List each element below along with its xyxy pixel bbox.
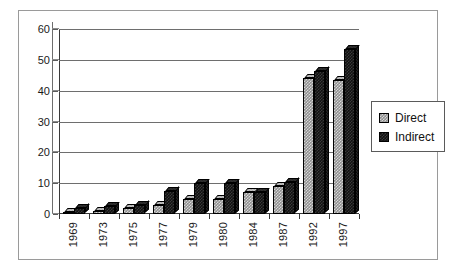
y-spine-step [52, 53, 59, 60]
y-tick-mark [53, 122, 58, 123]
bar-indirect-1980 [224, 183, 235, 214]
bar-face [213, 199, 224, 214]
y-tick-mark [53, 214, 58, 215]
bar-indirect-1975 [134, 205, 145, 214]
bar-group [269, 29, 299, 214]
x-tick-mark [359, 214, 360, 219]
x-tick-mark [329, 214, 330, 219]
bar-direct-1987 [273, 186, 284, 214]
x-tick-mark [119, 214, 120, 219]
bar-direct-1992 [303, 78, 314, 214]
y-tick-mark [53, 152, 58, 153]
plot-area: 0102030405060 19691973197519771979198019… [59, 29, 359, 214]
bar-face [123, 208, 134, 214]
bar-group [239, 29, 269, 214]
x-tick-mark [179, 214, 180, 219]
y-tick-label: 60 [38, 24, 50, 35]
bar-group [299, 29, 329, 214]
bar-face [134, 205, 145, 214]
bar-group [59, 29, 89, 214]
bar-direct-1969 [63, 212, 74, 214]
y-tick-mark [53, 183, 58, 184]
bar-direct-1977 [153, 205, 164, 214]
bar-direct-1979 [183, 199, 194, 214]
y-tick-label: 40 [38, 85, 50, 96]
bar-indirect-1973 [104, 206, 115, 214]
x-tick-label-1977: 1977 [158, 222, 169, 247]
x-tick-label-1973: 1973 [98, 222, 109, 247]
bar-indirect-1987 [284, 182, 295, 214]
bar-direct-1973 [93, 211, 104, 214]
bar-direct-1997 [333, 80, 344, 214]
bar-indirect-1997 [344, 49, 355, 214]
y-tick-label: 50 [38, 54, 50, 65]
bar-group [89, 29, 119, 214]
x-tick-label-1992: 1992 [308, 222, 319, 247]
bar-top [315, 67, 329, 71]
bar-indirect-1969 [74, 208, 85, 214]
x-tick-label-1987: 1987 [278, 222, 289, 247]
legend-label-indirect: Indirect [395, 131, 434, 143]
x-tick-label-1984: 1984 [248, 222, 259, 247]
bar-face [164, 191, 175, 214]
bar-face [63, 212, 74, 214]
chart-legend: Direct Indirect [371, 101, 445, 152]
y-spine-step [52, 115, 59, 122]
x-tick-mark [209, 214, 210, 219]
bar-side [355, 45, 359, 213]
legend-item-indirect: Indirect [379, 131, 434, 143]
y-tick-mark [53, 91, 58, 92]
bar-face [344, 49, 355, 214]
bar-face [254, 192, 265, 214]
bar-face [303, 78, 314, 214]
chart-frame: 0102030405060 19691973197519771979198019… [18, 10, 438, 260]
y-spine-step [52, 145, 59, 152]
bar-face [93, 211, 104, 214]
bar-top [285, 178, 299, 182]
legend-swatch-direct [379, 113, 389, 123]
x-tick-label-1975: 1975 [128, 222, 139, 247]
y-tick-mark [53, 29, 58, 30]
bar-direct-1975 [123, 208, 134, 214]
bar-face [183, 199, 194, 214]
bar-group [119, 29, 149, 214]
bar-direct-1984 [243, 192, 254, 214]
bar-group [209, 29, 239, 214]
bar-group [179, 29, 209, 214]
x-tick-label-1980: 1980 [218, 222, 229, 247]
bar-indirect-1977 [164, 191, 175, 214]
bar-indirect-1984 [254, 192, 265, 214]
x-tick-label-1997: 1997 [338, 222, 349, 247]
y-spine-step [52, 84, 59, 91]
x-tick-label-1979: 1979 [188, 222, 199, 247]
y-tick-label: 20 [38, 147, 50, 158]
y-tick-label: 10 [38, 178, 50, 189]
y-spine-step [52, 176, 59, 183]
x-tick-mark [239, 214, 240, 219]
bar-face [284, 182, 295, 214]
bar-face [153, 205, 164, 214]
bar-face [273, 186, 284, 214]
bar-indirect-1992 [314, 71, 325, 214]
bar-face [194, 183, 205, 214]
y-tick-mark [53, 60, 58, 61]
x-tick-mark [269, 214, 270, 219]
x-tick-mark [149, 214, 150, 219]
x-tick-mark [89, 214, 90, 219]
y-spine-step [52, 207, 59, 214]
bar-face [333, 80, 344, 214]
x-tick-mark [299, 214, 300, 219]
legend-label-direct: Direct [395, 112, 426, 124]
bar-indirect-1979 [194, 183, 205, 214]
bar-group [329, 29, 359, 214]
bar-face [314, 71, 325, 214]
legend-swatch-indirect [379, 132, 389, 142]
y-tick-label: 0 [44, 209, 50, 220]
y-spine-step [52, 22, 59, 29]
bar-face [224, 183, 235, 214]
y-tick-label: 30 [38, 116, 50, 127]
bar-top [135, 201, 149, 205]
x-tick-mark [59, 214, 60, 219]
bar-direct-1980 [213, 199, 224, 214]
x-tick-label-1969: 1969 [68, 222, 79, 247]
